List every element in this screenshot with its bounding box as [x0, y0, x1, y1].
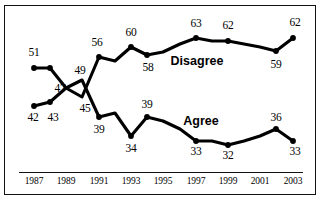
chart-frame: 51 47 45 56 60 58 63 62 59 62 42 43 49 3… [4, 5, 316, 195]
data-label-agree-1988: 43 [47, 111, 58, 123]
data-label-disagree-1999: 62 [222, 19, 233, 31]
x-tick-1999: 1999 [219, 176, 238, 186]
data-label-agree-1991: 39 [93, 123, 104, 135]
x-tick-1987: 1987 [25, 176, 44, 186]
x-tick-1993: 1993 [122, 176, 141, 186]
x-tick-2001: 2001 [251, 176, 270, 186]
x-tick-1995: 1995 [154, 176, 173, 186]
x-tick-1989: 1989 [57, 176, 76, 186]
data-label-agree-1993: 34 [125, 142, 136, 154]
chart-plot-area: 51 47 45 56 60 58 63 62 59 62 42 43 49 3… [5, 6, 317, 196]
data-label-disagree-1989: 47 [54, 82, 65, 94]
data-label-disagree-1997: 63 [190, 17, 201, 29]
series-line-disagree [34, 38, 293, 97]
x-tick-1991: 1991 [90, 176, 109, 186]
data-label-disagree-1990: 45 [79, 102, 90, 114]
data-label-disagree-1994: 58 [142, 61, 153, 73]
x-tick-2003: 2003 [284, 176, 303, 186]
data-label-disagree-2003: 62 [289, 16, 300, 28]
data-label-disagree-1993: 60 [125, 26, 136, 38]
data-label-disagree-1991: 56 [91, 36, 102, 48]
series-label-disagree: Disagree [171, 54, 224, 68]
data-label-agree-1997: 33 [190, 145, 201, 157]
x-tick-1997: 1997 [187, 176, 206, 186]
series-line-agree [34, 80, 293, 145]
data-label-agree-1994: 39 [141, 98, 152, 110]
series-markers-agree [31, 99, 296, 148]
data-label-agree-2002: 36 [270, 111, 281, 123]
line-chart-svg [5, 6, 317, 196]
data-label-agree-1990: 49 [74, 64, 85, 76]
data-label-agree-1987: 42 [27, 111, 38, 123]
data-label-agree-2003: 33 [289, 145, 300, 157]
data-label-agree-1999: 32 [222, 149, 233, 161]
data-label-disagree-2002: 59 [270, 58, 281, 70]
data-label-disagree-1987: 51 [28, 46, 39, 58]
x-axis-line [19, 172, 303, 173]
series-label-agree: Agree [183, 114, 218, 128]
